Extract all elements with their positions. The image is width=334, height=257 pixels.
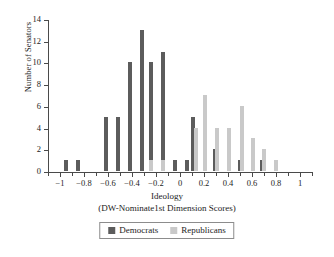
histogram-bar bbox=[274, 160, 278, 171]
x-axis-tick bbox=[228, 173, 229, 177]
x-axis-tick bbox=[48, 173, 49, 176]
x-axis-tick-label: 0.6 bbox=[247, 178, 258, 188]
legend-swatch bbox=[170, 227, 177, 234]
x-axis-tick-label: −1 bbox=[55, 178, 64, 188]
y-axis-tick: 14 bbox=[44, 20, 48, 21]
plot-area: 02468101214 −1−0.8−0.6−0.4−0.200.20.40.6… bbox=[48, 20, 312, 172]
histogram-bar bbox=[140, 30, 144, 171]
histogram-bar bbox=[149, 62, 153, 171]
y-axis-tick-label: 0 bbox=[37, 166, 41, 176]
x-axis-tick bbox=[60, 173, 61, 177]
y-axis-line bbox=[48, 20, 49, 173]
y-axis-tick-label: 10 bbox=[33, 57, 42, 67]
x-axis-tick bbox=[240, 173, 241, 176]
x-axis-title-sub: (DW-Nominate1st Dimension Scores) bbox=[0, 202, 334, 214]
y-axis-tick-label: 12 bbox=[33, 36, 42, 46]
histogram-bar bbox=[116, 117, 120, 171]
x-axis-tick bbox=[204, 173, 205, 177]
x-axis-tick-label: −0.2 bbox=[148, 178, 163, 188]
histogram-bar bbox=[104, 117, 108, 171]
x-axis-tick bbox=[180, 173, 181, 177]
y-axis-tick: 4 bbox=[44, 129, 48, 130]
x-axis-tick bbox=[96, 173, 97, 176]
y-axis-tick: 8 bbox=[44, 85, 48, 86]
legend-item: Democrats bbox=[108, 225, 158, 235]
histogram-bar bbox=[227, 128, 231, 171]
y-axis-tick-label: 8 bbox=[37, 79, 41, 89]
histogram-bar bbox=[262, 149, 266, 171]
x-axis-tick bbox=[216, 173, 217, 176]
x-axis-tick bbox=[288, 173, 289, 176]
histogram-bar bbox=[203, 95, 207, 171]
x-axis-tick bbox=[72, 173, 73, 176]
x-axis-tick bbox=[132, 173, 133, 177]
y-axis-tick: 12 bbox=[44, 42, 48, 43]
y-axis-tick: 6 bbox=[44, 107, 48, 108]
x-axis-tick bbox=[144, 173, 145, 176]
histogram-bar bbox=[194, 128, 198, 171]
histogram-bar bbox=[64, 160, 68, 171]
histogram-bar bbox=[76, 160, 80, 171]
x-axis-tick bbox=[120, 173, 121, 176]
y-axis-title: Number of Senators bbox=[23, 0, 33, 127]
histogram-bar bbox=[240, 106, 244, 171]
x-axis-tick bbox=[84, 173, 85, 177]
x-axis-tick-label: 0 bbox=[178, 178, 182, 188]
x-axis-tick-label: 0.2 bbox=[199, 178, 210, 188]
x-axis-tick bbox=[300, 173, 301, 177]
histogram-bar bbox=[149, 160, 153, 171]
y-axis-tick: 10 bbox=[44, 63, 48, 64]
x-axis-tick bbox=[276, 173, 277, 177]
y-axis-tick-label: 14 bbox=[33, 14, 42, 24]
histogram-bar bbox=[173, 160, 177, 171]
x-axis-tick-label: 1 bbox=[298, 178, 302, 188]
x-axis-tick-label: −0.4 bbox=[124, 178, 139, 188]
y-axis-tick-label: 2 bbox=[37, 144, 41, 154]
x-axis-tick bbox=[312, 173, 313, 176]
histogram-bar bbox=[161, 160, 165, 171]
histogram-bar bbox=[128, 62, 132, 171]
x-axis-tick-label: −0.6 bbox=[100, 178, 115, 188]
x-axis-tick-label: −0.8 bbox=[76, 178, 91, 188]
x-axis-tick bbox=[156, 173, 157, 177]
histogram-bar bbox=[215, 128, 219, 171]
histogram-bar bbox=[161, 52, 165, 171]
x-axis-tick-label: 0.4 bbox=[223, 178, 234, 188]
x-axis-tick bbox=[108, 173, 109, 177]
histogram-bar bbox=[185, 160, 189, 171]
legend-label: Democrats bbox=[119, 225, 158, 235]
x-axis-title-main: Ideology bbox=[0, 191, 334, 202]
x-axis-title: Ideology (DW-Nominate1st Dimension Score… bbox=[0, 191, 334, 214]
chart-legend: DemocratsRepublicans bbox=[99, 222, 234, 239]
histogram-bar bbox=[251, 138, 255, 171]
x-axis-tick bbox=[252, 173, 253, 177]
legend-item: Republicans bbox=[170, 225, 226, 235]
x-axis-tick bbox=[192, 173, 193, 176]
y-axis-tick-label: 4 bbox=[37, 123, 41, 133]
y-axis-tick-label: 6 bbox=[37, 101, 41, 111]
x-axis-tick-label: 0.8 bbox=[271, 178, 282, 188]
x-axis-tick bbox=[264, 173, 265, 176]
legend-label: Republicans bbox=[181, 225, 226, 235]
y-axis-tick: 2 bbox=[44, 150, 48, 151]
legend-swatch bbox=[108, 227, 115, 234]
histogram-figure: Number of Senators 02468101214 −1−0.8−0.… bbox=[0, 0, 334, 257]
x-axis-tick bbox=[168, 173, 169, 176]
